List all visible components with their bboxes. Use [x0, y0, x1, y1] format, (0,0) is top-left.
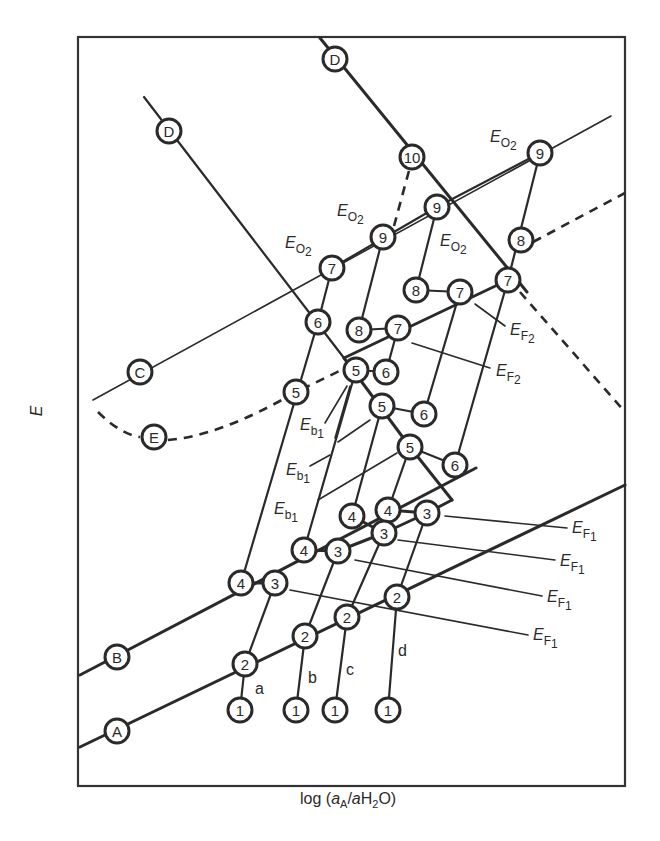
- label-eb1-2: Eb1: [286, 461, 310, 486]
- node-6: 6: [412, 402, 436, 426]
- label-ef1-2: EF1: [560, 552, 585, 577]
- node-2: 2: [385, 585, 409, 609]
- svg-text:1: 1: [292, 702, 300, 719]
- x-axis-label: log (aA/aH2O): [300, 790, 396, 810]
- node-8: 8: [404, 278, 428, 302]
- label-eb1-3: Eb1: [274, 500, 298, 525]
- node-7: 7: [386, 316, 410, 340]
- svg-text:2: 2: [241, 656, 249, 673]
- potential-diagram: EO2 EO2 EO2 EO2 EF2 EF2 EF1 EF1 EF1 EF1 …: [0, 0, 660, 841]
- label-eo2-right: EO2: [490, 128, 517, 153]
- label-ef1-3: EF1: [547, 588, 572, 613]
- node-1: 1: [323, 698, 347, 722]
- node-8: 8: [347, 318, 371, 342]
- svg-text:EO2: EO2: [440, 232, 467, 257]
- svg-text:EO2: EO2: [337, 202, 364, 227]
- node-3: 3: [263, 571, 287, 595]
- svg-text:7: 7: [394, 320, 402, 337]
- label-ef2-upper: EF2: [510, 321, 535, 346]
- svg-text:1: 1: [331, 702, 339, 719]
- node-1: 1: [284, 698, 308, 722]
- svg-text:EF1: EF1: [533, 626, 558, 651]
- label-eo2-inner: EO2: [440, 232, 467, 257]
- svg-text:EF1: EF1: [572, 519, 597, 544]
- svg-text:B: B: [112, 649, 122, 666]
- node-2: 2: [233, 652, 257, 676]
- svg-text:E: E: [149, 429, 159, 446]
- svg-text:2: 2: [343, 609, 351, 626]
- dashed-upper-right: [533, 193, 625, 242]
- label-eb1-1: Eb1: [300, 416, 324, 441]
- svg-text:6: 6: [314, 314, 322, 331]
- node-6: 6: [374, 360, 398, 384]
- node-5: 5: [398, 435, 422, 459]
- node-5: 5: [370, 394, 394, 418]
- node-9: 9: [528, 141, 552, 165]
- svg-text:Eb1: Eb1: [286, 461, 310, 486]
- node-4: 4: [292, 538, 316, 562]
- svg-text:A: A: [112, 723, 122, 740]
- svg-text:1: 1: [236, 702, 244, 719]
- svg-text:7: 7: [504, 272, 512, 289]
- node-5: 5: [344, 358, 368, 382]
- path-label-a: a: [255, 680, 264, 697]
- svg-text:EF1: EF1: [560, 552, 585, 577]
- label-eo2-left: EO2: [285, 234, 312, 259]
- node-b: B: [105, 645, 129, 669]
- svg-text:9: 9: [433, 199, 441, 216]
- node-e: E: [142, 425, 166, 449]
- node-3: 3: [415, 501, 439, 525]
- svg-text:5: 5: [406, 439, 414, 456]
- dashed-lower-right: [520, 292, 625, 412]
- node-2: 2: [293, 624, 317, 648]
- svg-text:4: 4: [237, 575, 245, 592]
- dashed-9-10: [394, 167, 410, 226]
- svg-text:EF2: EF2: [496, 362, 521, 387]
- node-c: C: [128, 360, 152, 384]
- svg-text:6: 6: [420, 406, 428, 423]
- svg-text:Eb1: Eb1: [274, 500, 298, 525]
- svg-text:9: 9: [379, 229, 387, 246]
- path-label-d: d: [398, 642, 407, 659]
- node-4: 4: [376, 498, 400, 522]
- node-6: 6: [443, 453, 467, 477]
- svg-text:5: 5: [352, 362, 360, 379]
- node-1: 1: [376, 698, 400, 722]
- svg-text:5: 5: [292, 384, 300, 401]
- label-eo2-mid: EO2: [337, 202, 364, 227]
- line-d-upper: [320, 38, 527, 292]
- node-4: 4: [229, 571, 253, 595]
- svg-text:4: 4: [348, 508, 356, 525]
- node-7: 7: [320, 256, 344, 280]
- svg-text:D: D: [330, 51, 341, 68]
- label-ef1-1: EF1: [572, 519, 597, 544]
- svg-text:4: 4: [384, 502, 392, 519]
- label-ef1-4: EF1: [533, 626, 558, 651]
- svg-text:4: 4: [300, 542, 308, 559]
- svg-text:D: D: [164, 123, 175, 140]
- node-4: 4: [340, 504, 364, 528]
- node-2: 2: [335, 605, 359, 629]
- svg-text:1: 1: [384, 702, 392, 719]
- node-d-left: D: [157, 119, 181, 143]
- svg-text:7: 7: [456, 284, 464, 301]
- node-3: 3: [372, 521, 396, 545]
- node-5: 5: [284, 380, 308, 404]
- node-7: 7: [448, 280, 472, 304]
- svg-text:2: 2: [393, 589, 401, 606]
- svg-text:7: 7: [328, 260, 336, 277]
- path-label-b: b: [308, 669, 317, 686]
- node-6: 6: [306, 310, 330, 334]
- svg-text:8: 8: [355, 322, 363, 339]
- node-9: 9: [371, 225, 395, 249]
- node-8: 8: [509, 228, 533, 252]
- y-axis-label: E: [28, 406, 46, 417]
- svg-text:C: C: [135, 364, 146, 381]
- node-7: 7: [496, 268, 520, 292]
- node-d-top: D: [323, 47, 347, 71]
- svg-text:Eb1: Eb1: [300, 416, 324, 441]
- svg-text:5: 5: [378, 398, 386, 415]
- svg-text:8: 8: [412, 282, 420, 299]
- svg-text:EO2: EO2: [285, 234, 312, 259]
- svg-text:3: 3: [271, 575, 279, 592]
